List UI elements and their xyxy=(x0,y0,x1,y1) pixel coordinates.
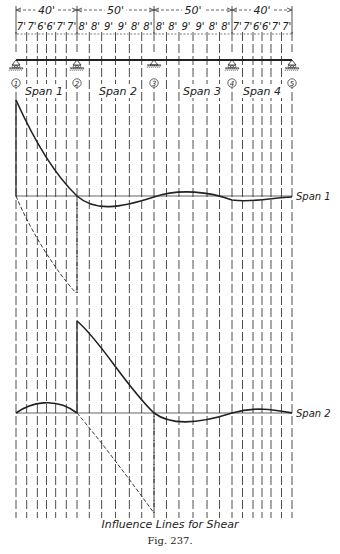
panel-length-label: 7' xyxy=(27,21,36,32)
span-length-label: 50' xyxy=(107,4,124,17)
panel-length-label: 8' xyxy=(221,21,230,32)
panel-length-label: 7' xyxy=(233,21,242,32)
panel-length-label: 6' xyxy=(47,21,56,32)
support-3: 3 xyxy=(147,60,161,88)
span-label: Span 2 xyxy=(99,85,137,98)
span-label: Span 3 xyxy=(183,85,221,98)
panel-length-label: 8' xyxy=(79,21,88,32)
panel-length-label: 9' xyxy=(118,21,127,32)
panel-length-label: 7' xyxy=(67,21,76,32)
panel-length-label: 8' xyxy=(168,21,177,32)
support-number: 2 xyxy=(75,80,80,88)
span-length-label: 40' xyxy=(38,4,55,17)
panel-length-label: 9' xyxy=(181,21,190,32)
panel-length-label: 9' xyxy=(104,21,113,32)
influence-curve-negative xyxy=(16,196,76,293)
span-length-label: 50' xyxy=(184,4,201,17)
influence-line-span-2: Span 2 xyxy=(16,321,331,513)
panel-length-label: 8' xyxy=(131,21,140,32)
panel-length-label: 7' xyxy=(243,21,252,32)
panel-length-label: 8' xyxy=(209,21,218,32)
influence-line-label: Span 1 xyxy=(296,191,331,202)
panel-length-label: 7' xyxy=(17,21,26,32)
panel-length-label: 7' xyxy=(56,21,65,32)
panel-length-label: 6' xyxy=(262,21,271,32)
panel-length-label: 8' xyxy=(91,21,100,32)
influence-curve xyxy=(77,321,292,422)
panel-length-label: 8' xyxy=(143,21,152,32)
figure-caption: Fig. 237. xyxy=(147,535,192,546)
figure-title: Influence Lines for Shear xyxy=(101,518,240,531)
influence-line-label: Span 2 xyxy=(296,408,331,419)
support-number: 4 xyxy=(230,80,234,88)
support-number: 5 xyxy=(290,80,295,88)
supports: 12345 xyxy=(9,60,299,88)
support-5: 5 xyxy=(285,60,299,88)
span-label: Span 1 xyxy=(25,85,63,98)
panel-length-label: 8' xyxy=(156,21,165,32)
influence-lines-figure: 40'7'7'6'6'7'7'50'8'8'9'9'8'8'50'8'8'9'9… xyxy=(0,0,340,554)
span-label: Span 4 xyxy=(243,85,281,98)
support-1: 1 xyxy=(9,60,23,88)
span-length-label: 40' xyxy=(253,4,270,17)
support-2: 2 xyxy=(70,60,84,88)
panel-length-label: 7' xyxy=(282,21,291,32)
panel-length-label: 6' xyxy=(253,21,262,32)
support-4: 4 xyxy=(225,60,239,88)
panel-length-label: 7' xyxy=(272,21,281,32)
panel-length-label: 6' xyxy=(37,21,46,32)
influence-line-span-1: Span 1 xyxy=(16,100,331,293)
support-number: 1 xyxy=(14,80,18,88)
panel-length-label: 9' xyxy=(195,21,204,32)
support-number: 3 xyxy=(152,80,156,88)
